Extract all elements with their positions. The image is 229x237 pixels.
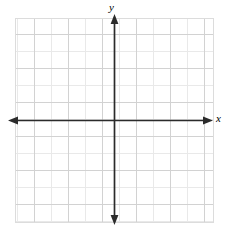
y-axis-up-arrowhead bbox=[111, 14, 119, 24]
y-axis-label: y bbox=[109, 2, 114, 13]
axes-layer bbox=[0, 0, 229, 237]
x-axis-label: x bbox=[216, 113, 221, 124]
y-axis bbox=[111, 14, 119, 225]
x-axis-left-arrowhead bbox=[8, 117, 18, 125]
y-axis-down-arrowhead bbox=[111, 215, 119, 225]
x-axis bbox=[8, 117, 213, 125]
x-axis-right-arrowhead bbox=[203, 117, 213, 125]
coordinate-plane-figure: y x bbox=[0, 0, 229, 237]
